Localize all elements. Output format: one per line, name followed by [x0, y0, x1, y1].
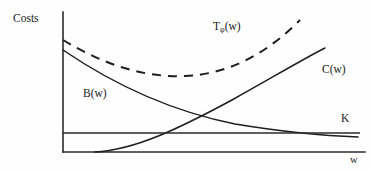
- cost-curve-label: C(w): [322, 64, 346, 76]
- y-axis-label: Costs: [13, 13, 39, 25]
- benefit-curve-label: B(w): [83, 88, 107, 100]
- total-cost-curve: [63, 20, 300, 76]
- total-cost-curve-label: Tφ(w): [213, 21, 241, 34]
- costs-figure: Costs Tφ(w) B(w) C(w) K w: [0, 0, 372, 172]
- cost-curve: [95, 48, 325, 152]
- constant-k-label: K: [341, 113, 349, 125]
- total-cost-arg: (w): [225, 20, 241, 32]
- total-cost-base: T: [213, 20, 220, 32]
- x-axis-label: w: [350, 155, 358, 166]
- figure-canvas: [0, 0, 372, 172]
